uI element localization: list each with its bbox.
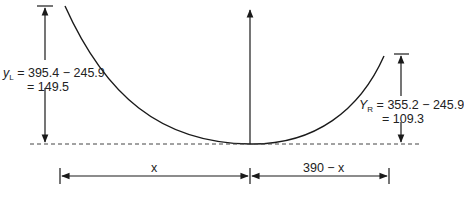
left-sag-expression: = 395.4 − 245.9 xyxy=(17,66,105,80)
cable-curve xyxy=(65,6,384,144)
left-sag-subscript: L xyxy=(9,73,13,82)
right-sag-expression: = 355.2 − 245.9 xyxy=(377,98,464,112)
right-sag-subscript: R xyxy=(367,105,373,114)
left-sag-result: = 149.5 xyxy=(27,80,69,94)
right-sag-result: = 109.3 xyxy=(382,112,424,126)
right-span-label: 390 − x xyxy=(303,161,344,175)
left-span-label: x xyxy=(151,161,157,175)
